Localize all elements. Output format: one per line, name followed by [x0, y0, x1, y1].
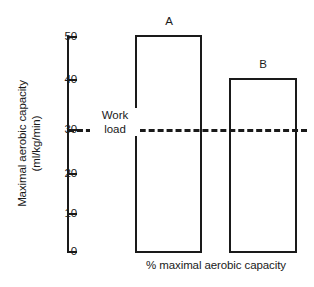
bar-b [229, 78, 297, 253]
bar-chart-figure: Maximal aerobic capacity (ml/kg/min) 50 … [0, 0, 314, 287]
y-tick-mark-50 [67, 36, 77, 38]
bar-label-b: B [251, 59, 275, 71]
bar-a [135, 35, 202, 253]
y-tick-mark-20 [67, 173, 77, 175]
y-tick-mark-40 [67, 79, 77, 81]
y-axis-line [67, 36, 69, 253]
y-tick-mark-10 [67, 213, 77, 215]
bar-label-a: A [157, 16, 181, 28]
y-tick-mark-0 [67, 251, 77, 253]
y-axis-title: Maximal aerobic capacity (ml/kg/min) [16, 39, 43, 249]
work-load-label: Work load [90, 108, 140, 136]
x-axis-title: % maximal aerobic capacity [118, 259, 314, 272]
